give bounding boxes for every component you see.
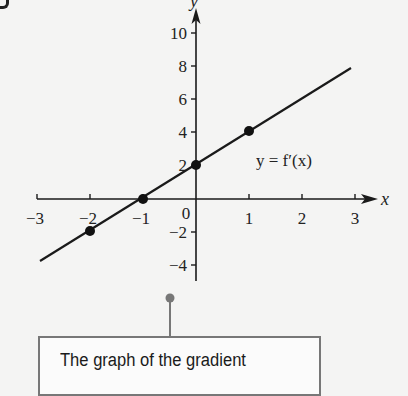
origin-label: 0 [182, 204, 191, 223]
x-tick-label: 1 [245, 209, 254, 228]
y-axis: y 10 8 6 4 2 −2 −4 [169, 0, 201, 281]
y-tick-label: 4 [179, 123, 188, 142]
data-point [191, 160, 201, 170]
y-tick-label: 8 [179, 57, 188, 76]
y-tick-label: 10 [170, 24, 187, 43]
callout-text: The graph of the gradient [60, 350, 246, 371]
y-tick-label: −2 [169, 223, 187, 242]
y-axis-label: y [188, 0, 198, 11]
x-tick-label: 2 [298, 209, 307, 228]
callout-box: The graph of the gradient [38, 336, 321, 396]
x-tick-label: 3 [351, 209, 360, 228]
data-point [138, 194, 148, 204]
x-axis-label: x [380, 189, 389, 209]
curve-label: y = f′(x) [256, 151, 312, 170]
x-tick-label: −1 [132, 209, 150, 228]
y-tick-label: −4 [169, 256, 188, 275]
data-point [244, 126, 254, 136]
y-tick-label: 6 [179, 90, 188, 109]
x-axis: x −3 −2 −1 1 2 3 0 [26, 189, 389, 228]
data-point [85, 226, 95, 236]
x-tick-label: −2 [79, 209, 97, 228]
x-tick-label: −3 [26, 209, 44, 228]
